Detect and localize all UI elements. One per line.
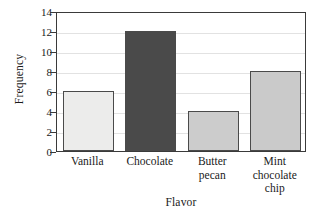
bar[interactable]	[63, 91, 114, 151]
y-tick-mark	[50, 32, 56, 33]
bars-group	[57, 13, 305, 151]
y-tick-mark	[50, 12, 56, 13]
y-axis-title: Frequency	[8, 0, 30, 158]
y-tick-mark	[50, 132, 56, 133]
x-tick-label: Mint chocolate chip	[244, 155, 307, 196]
bar[interactable]	[188, 111, 239, 151]
y-tick-label: 2	[32, 127, 52, 138]
y-tick-label: 4	[32, 107, 52, 118]
y-axis-title-text: Frequency	[13, 54, 25, 104]
x-tick-label: Vanilla	[56, 155, 119, 169]
y-tick-label: 0	[32, 147, 52, 158]
y-tick-mark	[50, 52, 56, 53]
y-tick-mark	[50, 112, 56, 113]
y-tick-label: 8	[32, 67, 52, 78]
y-tick-mark	[50, 152, 56, 153]
y-axis-tick-labels: 02468101214	[30, 0, 52, 218]
bar-chart: Frequency 02468101214 VanillaChocolateBu…	[0, 0, 322, 218]
x-tick-label: Butter pecan	[181, 155, 244, 182]
y-tick-mark	[50, 72, 56, 73]
bar[interactable]	[125, 31, 176, 151]
x-axis-title: Flavor	[56, 196, 306, 208]
y-tick-label: 10	[32, 47, 52, 58]
y-tick-mark	[50, 92, 56, 93]
y-tick-label: 14	[32, 7, 52, 18]
bar[interactable]	[250, 71, 301, 151]
y-tick-label: 6	[32, 87, 52, 98]
plot-area	[56, 12, 306, 152]
y-tick-label: 12	[32, 27, 52, 38]
x-tick-label: Chocolate	[119, 155, 182, 169]
